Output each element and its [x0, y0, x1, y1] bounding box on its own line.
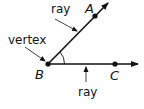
point-b-dot	[45, 61, 50, 66]
ray-top-label: ray	[51, 2, 70, 16]
vertex-pointer	[25, 47, 45, 61]
point-b-label: B	[35, 67, 44, 82]
angle-diagram: A B C ray vertex ray	[0, 0, 144, 109]
ray-bottom-label: ray	[78, 85, 97, 99]
angle-arc	[60, 52, 65, 64]
vertex-label: vertex	[8, 33, 46, 47]
point-a-label: A	[84, 1, 94, 16]
point-c-dot	[112, 61, 117, 66]
ray-top-pointer	[55, 19, 77, 31]
point-c-label: C	[110, 68, 120, 83]
